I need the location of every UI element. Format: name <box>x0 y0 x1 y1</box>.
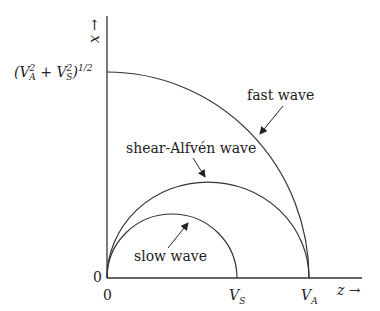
y-axis-label: x → <box>87 19 101 43</box>
x-tick-va: VA <box>301 288 318 306</box>
x-tick-vs: VS <box>229 288 245 306</box>
origin-y-label: 0 <box>93 270 102 284</box>
shear-alfven-arrow <box>193 158 205 177</box>
fast-wave-arrow <box>260 106 283 134</box>
shear-alfven-label: shear-Alfvén wave <box>126 141 256 155</box>
origin-x-label: 0 <box>103 288 112 302</box>
x-axis-label: z → <box>337 283 361 297</box>
fast-wave-label: fast wave <box>247 88 314 102</box>
slow-wave-arrow <box>168 223 188 248</box>
slow-wave-curve <box>107 214 237 278</box>
phase-velocity-diagram: x → (V2A + V2S)1/2 0 0 VS VA z → fast wa… <box>0 0 380 311</box>
slow-wave-label: slow wave <box>134 249 207 263</box>
y-tick-label: (V2A + V2S)1/2 <box>14 64 92 82</box>
